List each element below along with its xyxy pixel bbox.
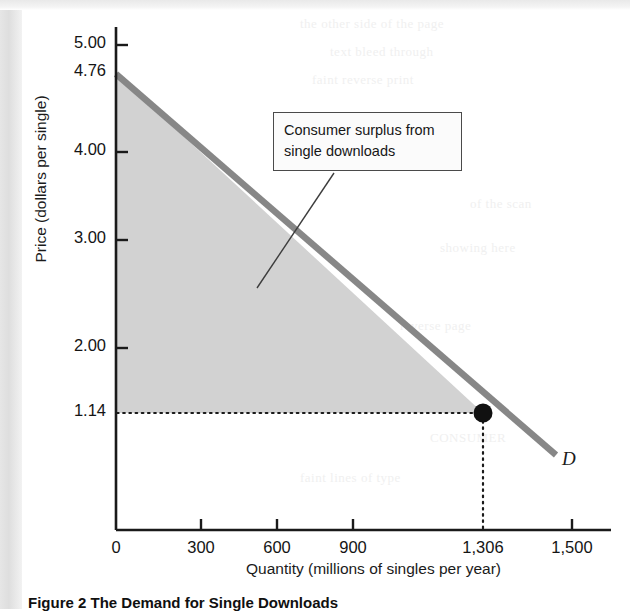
y-tick-label-4.00: 4.00 xyxy=(48,140,106,159)
y-tick-label-3.00: 3.00 xyxy=(48,228,106,247)
consumer-surplus-callout: Consumer surplus from single downloads xyxy=(273,112,462,171)
x-tick-label-300: 300 xyxy=(171,538,231,557)
demand-curve-label: D xyxy=(562,448,576,470)
y-axis-label: Price (dollars per single) xyxy=(32,64,50,294)
figure-caption: Figure 2 The Demand for Single Downloads xyxy=(28,594,338,611)
equilibrium-point xyxy=(474,404,493,423)
x-tick-label-1306: 1,306 xyxy=(443,538,523,557)
x-tick-label-900: 900 xyxy=(323,538,383,557)
y-tick-label-5.00: 5.00 xyxy=(48,33,106,52)
x-tick-label-1500: 1,500 xyxy=(532,538,612,557)
y-tick-label-2.00: 2.00 xyxy=(48,336,106,355)
y-tick-label-1.14: 1.14 xyxy=(48,401,106,420)
x-tick-label-0: 0 xyxy=(101,538,131,557)
callout-line-1: Consumer surplus from xyxy=(284,122,435,138)
x-tick-label-600: 600 xyxy=(247,538,307,557)
x-axis-label: Quantity (millions of singles per year) xyxy=(246,560,501,578)
callout-line-2: single downloads xyxy=(284,141,452,162)
y-tick-label-4.76: 4.76 xyxy=(48,61,106,80)
